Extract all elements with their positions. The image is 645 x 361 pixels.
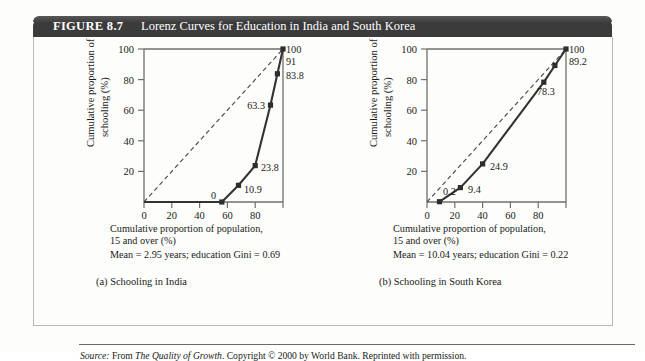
point-label-23-8: 23.8: [261, 162, 279, 173]
lorenz-curve-south-korea: [440, 49, 567, 202]
x-ticks-south-korea: [427, 202, 566, 208]
x-axis-label-line1: Cumulative proportion of population,: [393, 223, 546, 235]
y-tick-label-100: 100: [401, 44, 417, 55]
x-tick-label-60: 60: [505, 210, 516, 221]
y-tick-label-40: 40: [407, 136, 418, 147]
y-tick-label-40: 40: [124, 136, 135, 147]
figure-title-bar: FIGURE 8.7 Lorenz Curves for Education i…: [33, 16, 612, 37]
x-tick-label-60: 60: [222, 210, 233, 221]
y-ticks-india: [138, 49, 144, 171]
point-label-100: 100: [286, 44, 301, 55]
y-axis-label-line2: schooling (%): [99, 77, 111, 137]
x-tick-label-80: 80: [250, 210, 261, 221]
point-label-83-8: 83.8: [286, 70, 304, 81]
x-axis-label-line2: 15 and over (%): [110, 235, 176, 247]
point-label-100: 100: [569, 44, 584, 55]
x-axis-label-line2: 15 and over (%): [393, 235, 459, 247]
y-axis-label-line1: Cumulative proportion of: [85, 38, 96, 147]
x-axis-label-line1: Cumulative proportion of population,: [110, 223, 263, 235]
source-divider: [79, 344, 635, 345]
source-line: Source: From The Quality of Growth. Copy…: [80, 350, 466, 361]
point-label-91: 91: [286, 56, 296, 67]
x-tick-label-40: 40: [477, 210, 488, 221]
x-tick-label-0: 0: [424, 210, 429, 221]
y-tick-label-80: 80: [124, 75, 135, 86]
figure-number: FIGURE 8.7: [53, 19, 123, 34]
y-tick-label-60: 60: [407, 105, 418, 116]
point-label-10-9: 10.9: [244, 184, 262, 195]
figure-title: Lorenz Curves for Education in India and…: [141, 19, 415, 34]
equality-line-south-korea: [427, 49, 566, 202]
y-tick-label-60: 60: [124, 105, 135, 116]
source-text-2: . Copyright © 2000 by World Bank. Reprin…: [222, 350, 467, 361]
subcaption-india: (a) Schooling in India: [96, 276, 187, 288]
x-tick-label-80: 80: [533, 210, 544, 221]
y-tick-label-20: 20: [407, 166, 418, 177]
x-tick-label-20: 20: [450, 210, 461, 221]
chart-schooling-in-south-korea: 100 80 60 40 20 0 20 40 60 80: [323, 37, 612, 325]
lorenz-plot-south-korea: 100 80 60 40 20 0 20 40 60 80: [323, 37, 612, 222]
x-tick-label-0: 0: [141, 210, 146, 221]
figure-body-panel: 100 80 60 40 20 0 20 40 60 80: [33, 37, 613, 326]
point-label-0-2: 0.2: [443, 186, 456, 197]
source-prefix: Source:: [80, 350, 112, 361]
source-work-title: The Quality of Growth: [135, 350, 222, 361]
stats-line-korea: Mean = 10.04 years; education Gini = 0.2…: [393, 249, 568, 261]
y-ticks-south-korea: [421, 49, 427, 171]
source-text-1: From: [112, 350, 135, 361]
x-tick-label-40: 40: [194, 210, 205, 221]
y-tick-label-100: 100: [118, 44, 134, 55]
point-label-0: 0: [211, 190, 216, 201]
lorenz-markers-india: [219, 46, 285, 204]
point-label-9-4: 9.4: [468, 184, 481, 195]
point-label-63-3: 63.3: [247, 100, 265, 111]
point-label-89-2: 89.2: [569, 56, 587, 67]
chart-schooling-in-india: 100 80 60 40 20 0 20 40 60 80: [34, 37, 323, 325]
lorenz-plot-india: 100 80 60 40 20 0 20 40 60 80: [34, 37, 323, 222]
x-tick-label-20: 20: [167, 210, 178, 221]
y-tick-label-80: 80: [407, 75, 418, 86]
y-axis-label-line1: Cumulative proportion of: [368, 38, 379, 147]
subcaption-korea: (b) Schooling in South Korea: [379, 276, 501, 288]
point-label-78-3: 78.3: [537, 86, 555, 97]
y-axis-label-line2: schooling (%): [382, 77, 394, 137]
lorenz-markers-south-korea: [437, 46, 569, 204]
stats-line-india: Mean = 2.95 years; education Gini = 0.69: [110, 249, 280, 261]
point-label-24-9: 24.9: [490, 161, 508, 172]
equality-line-india: [144, 49, 283, 202]
y-tick-label-20: 20: [124, 166, 135, 177]
